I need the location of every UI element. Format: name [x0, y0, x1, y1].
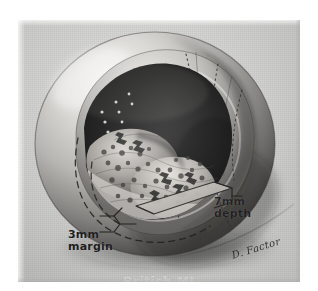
panel-edge-top [18, 20, 300, 26]
panel-edge-right [295, 20, 300, 282]
scanned-photo-panel: 7mm depth 3mm margin D. Factor British M… [18, 20, 300, 282]
panel-edge-left [18, 20, 25, 282]
panel-edge-bottom [18, 277, 300, 282]
panel-vignette [18, 20, 300, 282]
figure-root: 7mm depth 3mm margin D. Factor British M… [0, 0, 318, 291]
